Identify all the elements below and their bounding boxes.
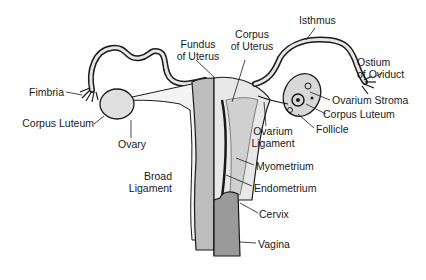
label-myometrium: Myometrium (256, 160, 314, 172)
label-vagina: Vagina (258, 238, 290, 250)
label-cervix: Cervix (259, 208, 289, 220)
label-broad-ligament: Broad Ligament (120, 170, 172, 194)
label-corpus-luteum-right: Corpus Luteum (323, 108, 395, 120)
label-fimbria: Fimbria (8, 86, 64, 98)
anatomy-diagram: Fimbria Corpus Luteum Ovary Fundus of Ut… (0, 0, 426, 280)
left-ovary (100, 89, 134, 119)
label-ovary: Ovary (118, 138, 146, 150)
label-ostium-of-oviduct: Ostium of Oviduct (357, 56, 404, 80)
label-corpus-luteum-left: Corpus Luteum (0, 117, 94, 129)
label-corpus-of-uterus: Corpus of Uterus (222, 28, 282, 52)
label-fundus-of-uterus: Fundus of Uterus (168, 38, 228, 62)
cervix-vagina (214, 192, 240, 256)
label-follicle: Follicle (316, 123, 349, 135)
uterus-exterior (192, 78, 214, 250)
label-ovarium-ligament: Ovarium Ligament (249, 125, 297, 149)
label-endometrium: Endometrium (254, 182, 316, 194)
label-isthmus: Isthmus (299, 14, 336, 26)
label-ovarium-stroma: Ovarium Stroma (332, 94, 408, 106)
